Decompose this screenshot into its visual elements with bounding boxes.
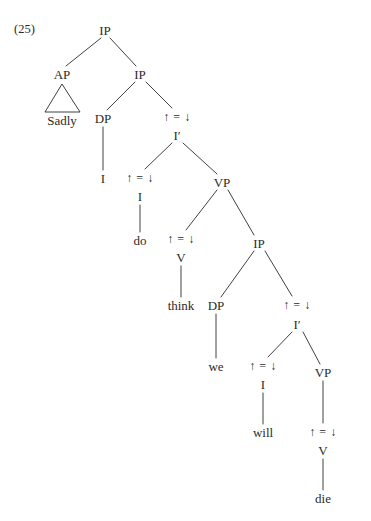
- functional-annotation: ↑ = ↓: [309, 426, 336, 438]
- tree-terminal-word: do: [134, 234, 147, 247]
- tree-category-node: I: [261, 378, 265, 391]
- tree-terminal-word: I: [101, 172, 105, 185]
- tree-category-node: VP: [315, 366, 332, 379]
- tree-category-node: V: [176, 251, 185, 264]
- tree-category-node: I′: [293, 318, 300, 331]
- tree-edge: [145, 143, 172, 169]
- tree-edge: [268, 332, 292, 357]
- syntax-tree-figure: (25) IPAPIPSadlyDP↑ = ↓I′I↑ = ↓IVPdo↑ = …: [0, 0, 371, 521]
- tree-terminal-word: think: [168, 299, 195, 312]
- tree-category-node: DP: [208, 299, 225, 312]
- tree-edge: [107, 82, 135, 110]
- tree-category-node: I′: [173, 129, 180, 142]
- tree-terminal-word: will: [253, 426, 273, 439]
- tree-edge: [66, 38, 101, 66]
- tree-category-node: IP: [134, 68, 146, 81]
- tree-edge: [110, 38, 136, 66]
- functional-annotation: ↑ = ↓: [249, 360, 276, 372]
- tree-edge: [265, 251, 292, 296]
- tree-terminal-word: we: [208, 360, 223, 373]
- functional-annotation: ↑ = ↓: [167, 233, 194, 245]
- tree-category-node: AP: [54, 68, 71, 81]
- tree-category-node: VP: [214, 176, 231, 189]
- functional-annotation: ↑ = ↓: [283, 299, 310, 311]
- tree-terminal-word: die: [315, 492, 331, 505]
- example-number-label: (25): [14, 22, 35, 37]
- functional-annotation: ↑ = ↓: [126, 172, 153, 184]
- tree-edge: [221, 251, 254, 297]
- tree-edge: [303, 332, 320, 364]
- functional-annotation: ↑ = ↓: [163, 111, 190, 123]
- tree-edge: [146, 82, 172, 108]
- adjunct-triangle-icon: [45, 84, 80, 112]
- tree-category-node: V: [318, 444, 327, 457]
- tree-category-node: IP: [99, 24, 111, 37]
- tree-category-node: IP: [253, 237, 265, 250]
- tree-terminal-word: Sadly: [47, 114, 77, 127]
- tree-edge: [228, 190, 254, 235]
- tree-category-node: I: [138, 190, 142, 203]
- tree-edge: [183, 143, 217, 174]
- tree-category-node: DP: [95, 112, 112, 125]
- tree-edge: [186, 190, 217, 230]
